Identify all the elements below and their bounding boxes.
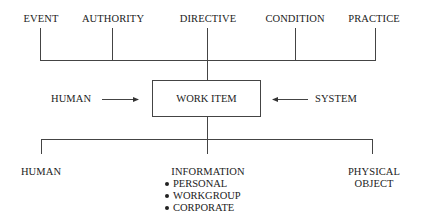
output-physical-line1: PHYSICAL bbox=[348, 166, 400, 178]
output-information: INFORMATION bbox=[171, 166, 244, 178]
information-subitem-workgroup: WORKGROUP bbox=[165, 190, 241, 202]
input-human: HUMAN bbox=[51, 93, 91, 105]
source-practice: PRACTICE bbox=[348, 13, 400, 25]
output-physical-line2: OBJECT bbox=[354, 178, 393, 190]
output-human: HUMAN bbox=[21, 166, 61, 178]
work-item-label: WORK ITEM bbox=[176, 93, 236, 104]
bullet-icon bbox=[165, 194, 169, 198]
work-item-box: WORK ITEM bbox=[152, 80, 261, 117]
information-subitem-corporate: CORPORATE bbox=[165, 202, 234, 214]
information-subitem-personal: PERSONAL bbox=[165, 178, 227, 190]
human-arrow-head bbox=[133, 97, 139, 102]
source-event: EVENT bbox=[24, 13, 59, 25]
system-arrow-head bbox=[272, 97, 278, 102]
source-condition: CONDITION bbox=[265, 13, 324, 25]
input-system: SYSTEM bbox=[315, 93, 357, 105]
source-directive: DIRECTIVE bbox=[180, 13, 236, 25]
bullet-icon bbox=[165, 206, 169, 210]
bullet-icon bbox=[165, 182, 169, 186]
source-authority: AUTHORITY bbox=[82, 13, 144, 25]
